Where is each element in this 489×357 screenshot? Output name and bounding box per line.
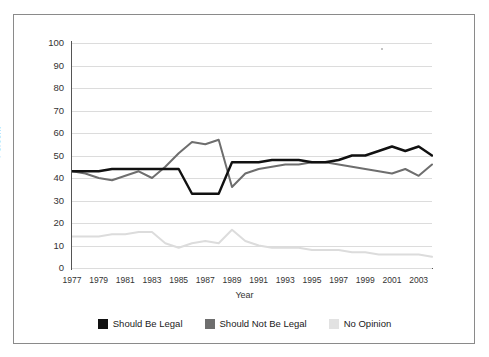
y-tick-label: 100 (24, 38, 64, 48)
legend-swatch-icon (329, 319, 339, 329)
chart-legend: Should Be LegalShould Not Be LegalNo Opi… (0, 318, 489, 329)
plot-lines (72, 43, 433, 269)
legend-item: Should Be Legal (98, 318, 183, 329)
y-tick-label: 40 (24, 173, 64, 183)
legend-label: No Opinion (344, 318, 392, 329)
y-tick-label: 20 (24, 218, 64, 228)
y-tick-label: 70 (24, 106, 64, 116)
series-line (72, 147, 432, 194)
y-tick-label: 80 (24, 83, 64, 93)
y-tick-label: 50 (24, 151, 64, 161)
legend-item: No Opinion (329, 318, 392, 329)
legend-label: Should Not Be Legal (220, 318, 307, 329)
legend-swatch-icon (98, 319, 108, 329)
y-tick-label: 30 (24, 196, 64, 206)
y-tick-label: 60 (24, 128, 64, 138)
series-line (72, 230, 432, 257)
x-tick-label: 2003 (399, 275, 439, 285)
legend-swatch-icon (205, 319, 215, 329)
y-tick-label: 10 (24, 241, 64, 251)
y-tick-label: 0 (24, 263, 64, 273)
legend-item: Should Not Be Legal (205, 318, 307, 329)
y-tick-label: 90 (24, 61, 64, 71)
legend-label: Should Be Legal (113, 318, 183, 329)
x-axis-title: Year (0, 290, 489, 300)
y-axis-title: Percent (0, 127, 2, 158)
